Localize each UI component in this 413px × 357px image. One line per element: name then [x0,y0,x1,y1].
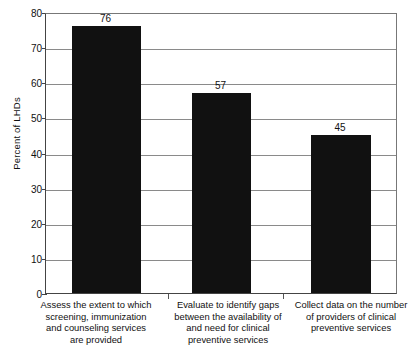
bar [192,93,251,293]
y-tick-mark [42,294,47,295]
bar [311,135,371,293]
bar-chart: Percent of LHDs 80706050403020100 Assess… [0,0,413,357]
y-axis-ticks: 80706050403020100 [0,13,42,294]
x-category-label-line: and counseling services [27,322,165,334]
x-category-label-line: of providers of clinical [291,311,411,323]
x-category-label-line: Collect data on the number [291,299,411,311]
y-tick-label: 20 [6,218,42,229]
x-category-label-line: preventive services [291,322,411,334]
y-tick-label: 0 [6,289,42,300]
x-category-label-line: Evaluate to identify gaps [169,299,287,311]
y-tick-label: 30 [6,183,42,194]
bar [72,26,141,293]
x-category-label-line: are provided [27,334,165,346]
y-tick-label: 60 [6,78,42,89]
x-category-label: Evaluate to identify gapsbetween the ava… [167,299,289,345]
x-category-label-line: and need for clinical [169,322,287,334]
x-category-label-line: Assess the extent to which [27,299,165,311]
x-category-label-line: between the availability of [169,311,287,323]
y-tick-label: 50 [6,113,42,124]
y-tick-label: 70 [6,43,42,54]
x-category-label: Collect data on the numberof providers o… [289,299,413,334]
x-axis-labels: Assess the extent to whichscreening, imm… [25,299,413,345]
bar-value-label: 76 [100,13,111,24]
bar-value-label: 57 [215,80,226,91]
x-category-label-line: preventive services [169,334,287,346]
y-tick-label: 10 [6,253,42,264]
y-tick-label: 40 [6,148,42,159]
bar-value-label: 45 [334,122,345,133]
plot-area [45,13,397,294]
y-tick-label: 80 [6,8,42,19]
x-category-label: Assess the extent to whichscreening, imm… [25,299,167,345]
x-category-label-line: screening, immunization [27,311,165,323]
